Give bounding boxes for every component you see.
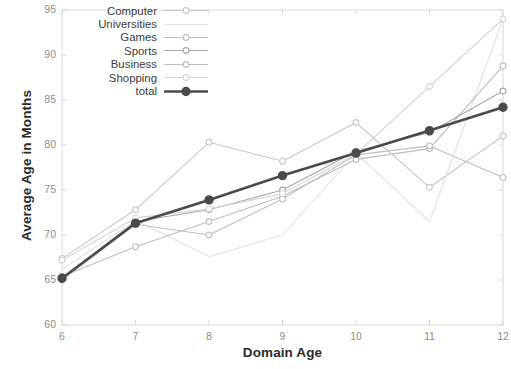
data-point — [426, 127, 433, 134]
legend-item-universities[interactable]: Universities — [60, 17, 210, 30]
data-point — [353, 120, 359, 126]
data-point — [499, 104, 506, 111]
data-point — [58, 275, 65, 282]
chart-figure: Average Age in Months Domain Age 6065707… — [0, 0, 511, 369]
legend-key-swatch — [162, 71, 210, 84]
data-point — [206, 206, 212, 212]
legend-label: total — [135, 85, 162, 97]
data-point — [500, 88, 506, 94]
legend-key-swatch — [162, 58, 210, 71]
data-point — [59, 257, 65, 263]
data-point — [280, 158, 286, 164]
legend-key-swatch — [162, 4, 210, 17]
data-point — [133, 244, 139, 250]
legend-key-swatch — [162, 44, 210, 57]
legend-label: Business — [111, 58, 162, 70]
legend-item-business[interactable]: Business — [60, 58, 210, 71]
legend-item-sports[interactable]: Sports — [60, 44, 210, 57]
data-point — [206, 232, 212, 238]
data-point — [280, 191, 286, 197]
data-point — [206, 139, 212, 145]
data-point — [132, 220, 139, 227]
series-sports — [59, 88, 506, 281]
data-point — [206, 219, 212, 225]
legend-key-swatch — [162, 31, 210, 44]
legend-item-computer[interactable]: Computer — [60, 4, 210, 17]
legend-label: Sports — [124, 45, 162, 57]
series-line — [62, 146, 503, 280]
legend-label: Games — [120, 31, 162, 43]
data-point — [500, 63, 506, 69]
data-point — [352, 150, 359, 157]
legend-item-games[interactable]: Games — [60, 31, 210, 44]
legend-item-shopping[interactable]: Shopping — [60, 71, 210, 84]
legend-label: Universities — [98, 18, 162, 30]
legend-key-swatch — [162, 85, 210, 98]
legend-key-swatch — [162, 18, 210, 31]
data-point — [500, 16, 506, 22]
legend-label: Computer — [107, 5, 162, 17]
data-point — [205, 196, 212, 203]
data-point — [500, 175, 506, 181]
data-point — [427, 84, 433, 90]
chart-legend: ComputerUniversitiesGamesSportsBusinessS… — [60, 4, 210, 98]
data-point — [500, 133, 506, 139]
data-point — [427, 143, 433, 149]
data-point — [279, 172, 286, 179]
legend-item-total[interactable]: total — [60, 84, 210, 97]
data-point — [427, 184, 433, 190]
legend-label: Shopping — [109, 72, 162, 84]
data-point — [133, 207, 139, 213]
